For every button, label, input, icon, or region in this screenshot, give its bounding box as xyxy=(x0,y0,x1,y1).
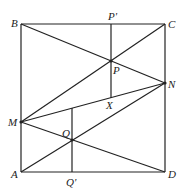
label-d: D xyxy=(167,168,176,180)
point-m xyxy=(19,120,22,123)
label-x: X xyxy=(105,99,114,111)
segment-md xyxy=(21,122,165,172)
geometry-diagram: B C A D M N P P' X Q Q' xyxy=(0,0,183,196)
segment-an xyxy=(21,83,165,172)
point-q xyxy=(70,138,73,141)
point-p xyxy=(109,59,112,62)
label-a: A xyxy=(10,168,18,180)
label-m: M xyxy=(7,116,18,128)
segment-mc xyxy=(21,24,165,122)
label-qprime: Q' xyxy=(66,176,77,188)
label-pprime: P' xyxy=(107,10,118,22)
segment-mn xyxy=(21,83,165,122)
label-n: N xyxy=(167,78,176,90)
label-c: C xyxy=(168,18,176,30)
label-q: Q xyxy=(62,127,70,139)
segment-bn xyxy=(21,24,165,83)
point-n xyxy=(163,81,166,84)
label-p: P xyxy=(112,64,120,76)
label-b: B xyxy=(11,17,18,29)
